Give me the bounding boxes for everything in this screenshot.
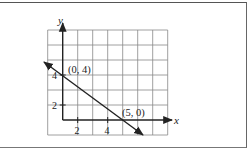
y-tick-label-4: 4 [52, 70, 57, 81]
y-axis-label: y [57, 14, 63, 26]
x-axis-label: x [173, 114, 179, 126]
tick-marks [60, 75, 108, 123]
point-label-5-0: (5, 0) [122, 107, 145, 119]
y-tick-label-2: 2 [52, 100, 57, 111]
line-graph: y x 2 4 2 4 (0, 4) (5, 0) [0, 0, 250, 151]
data-line [44, 62, 143, 135]
x-tick-label-2: 2 [75, 125, 80, 136]
x-tick-label-4: 4 [105, 125, 110, 136]
point-label-0-4: (0, 4) [68, 64, 91, 76]
